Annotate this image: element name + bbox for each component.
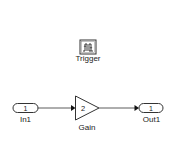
arrowhead-icon xyxy=(71,105,76,111)
out1-label: Out1 xyxy=(139,115,164,124)
outport-out1[interactable]: 1 xyxy=(139,104,163,113)
arrowhead-icon xyxy=(135,105,140,111)
gain-block[interactable]: 2 xyxy=(76,96,100,120)
inport-in1-number: 1 xyxy=(24,105,28,112)
gain-value: 2 xyxy=(81,104,85,113)
gain-label: Gain xyxy=(72,123,102,132)
signal-line-in1-to-gain[interactable] xyxy=(38,105,76,111)
diagram-canvas: 1 2 1 Trigger In1 Gain Out1 xyxy=(0,0,177,151)
outport-out1-number: 1 xyxy=(149,105,153,112)
trigger-block-frame xyxy=(80,40,96,54)
inport-in1[interactable]: 1 xyxy=(13,104,38,113)
trigger-label: Trigger xyxy=(72,54,104,63)
in1-label: In1 xyxy=(13,115,38,124)
signal-line-gain-to-out1[interactable] xyxy=(99,105,139,111)
trigger-block[interactable] xyxy=(80,40,96,54)
gain-triangle-shape xyxy=(76,96,100,120)
